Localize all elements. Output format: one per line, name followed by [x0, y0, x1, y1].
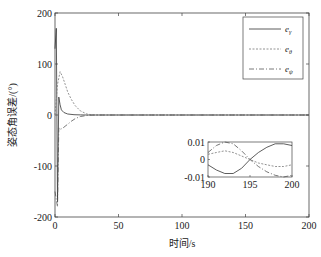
y-axis-label: 姿态角误差/(°) [6, 83, 19, 146]
y-tick-label: 200 [37, 8, 52, 19]
inset-y-tick-label: 0.01 [188, 137, 206, 148]
inset-y-tick-label: -0.01 [184, 172, 205, 183]
legend: eγeθeψ [243, 17, 303, 79]
y-tick-label: -100 [34, 161, 52, 172]
x-axis-label: 时间/s [169, 237, 196, 249]
legend-box [243, 17, 303, 79]
y-tick-label: -200 [34, 212, 52, 223]
inset-x-tick-label: 195 [243, 179, 258, 190]
x-tick-label: 0 [53, 220, 58, 231]
attitude-error-chart: 050100150200-200-1000100200 190195200-0.… [0, 0, 321, 257]
x-tick-label: 100 [175, 220, 190, 231]
inset-x-tick-label: 200 [285, 179, 300, 190]
y-tick-label: 100 [37, 59, 52, 70]
inset-y-tick-label: 0 [200, 154, 205, 165]
x-tick-label: 200 [302, 220, 317, 231]
x-tick-label: 50 [114, 220, 124, 231]
x-tick-label: 150 [238, 220, 253, 231]
y-tick-label: 0 [47, 110, 52, 121]
